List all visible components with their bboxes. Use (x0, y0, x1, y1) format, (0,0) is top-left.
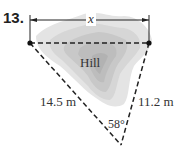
x-label: x (86, 12, 96, 26)
left-side-label: 14.5 m (40, 94, 76, 110)
right-vertex-dot (146, 40, 151, 45)
hill-label: Hill (80, 55, 100, 71)
right-side-label: 11.2 m (138, 94, 174, 110)
angle-label: 58° (108, 117, 125, 132)
left-vertex-dot (27, 40, 32, 45)
